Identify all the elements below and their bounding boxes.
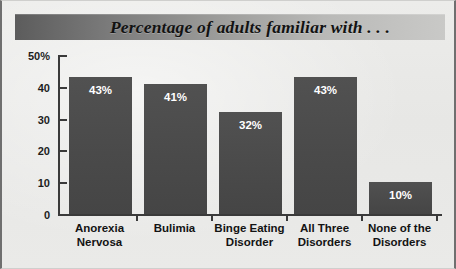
bar-value-label: 32% xyxy=(219,119,282,131)
x-tick-mark xyxy=(436,216,438,221)
bar: 32% xyxy=(219,112,282,214)
y-tick-mark xyxy=(60,214,67,216)
bar-value-label: 43% xyxy=(294,84,357,96)
x-tick-mark xyxy=(361,216,363,221)
bar: 10% xyxy=(369,182,432,214)
plot-area: 50%403020100 43%41%32%43%10% xyxy=(58,55,444,216)
y-tick-label: 30 xyxy=(38,114,50,126)
y-tick-mark xyxy=(60,87,67,89)
bar-value-label: 43% xyxy=(69,84,132,96)
y-tick-label: 40 xyxy=(38,82,50,94)
y-tick-label: 20 xyxy=(38,145,50,157)
x-category-label: None of the Disorders xyxy=(362,222,437,249)
chart-title-bar: Percentage of adults familiar with . . . xyxy=(15,14,445,40)
bar: 43% xyxy=(294,77,357,214)
y-tick-label: 50% xyxy=(28,50,50,62)
y-tick-label: 10 xyxy=(38,177,50,189)
bar-value-label: 41% xyxy=(144,91,207,103)
x-tick-mark xyxy=(286,216,288,221)
x-category-label: All Three Disorders xyxy=(287,222,362,249)
x-axis-line xyxy=(58,214,442,216)
x-tick-mark xyxy=(136,216,138,221)
y-tick-mark xyxy=(60,55,67,57)
y-axis-line xyxy=(58,55,60,216)
bar: 43% xyxy=(69,77,132,214)
x-category-label: Anorexia Nervosa xyxy=(62,222,137,249)
bar: 41% xyxy=(144,84,207,214)
bar-value-label: 10% xyxy=(369,189,432,201)
chart-figure: Percentage of adults familiar with . . .… xyxy=(0,0,456,269)
x-category-label: Bulimia xyxy=(137,222,212,236)
y-tick-label: 0 xyxy=(44,209,50,221)
y-tick-mark xyxy=(60,182,67,184)
x-category-label: Binge Eating Disorder xyxy=(212,222,287,249)
y-tick-mark xyxy=(60,150,67,152)
x-tick-mark xyxy=(211,216,213,221)
chart-title: Percentage of adults familiar with . . . xyxy=(70,17,390,38)
y-tick-mark xyxy=(60,119,67,121)
